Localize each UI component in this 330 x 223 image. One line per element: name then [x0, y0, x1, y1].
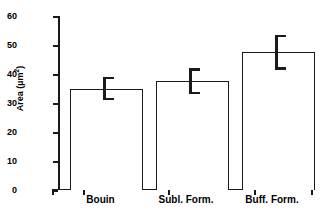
x-axis-label-buff-form: Buff. Form.: [229, 194, 315, 205]
y-tick-50: [53, 45, 58, 47]
x-tick-0: [52, 190, 54, 195]
error-bar-cap-bottom: [189, 92, 200, 95]
error-bar-cap-top: [275, 35, 286, 38]
y-tick-label-0: 0: [0, 186, 17, 195]
y-tick-label-40: 40: [0, 70, 17, 79]
y-tick-label-50: 50: [0, 41, 17, 50]
bar-bouin[interactable]: [70, 89, 143, 191]
error-bar-cap-bottom: [275, 67, 286, 70]
x-axis-label-subl-form: Subl. Form.: [143, 194, 229, 205]
error-bar-stem: [275, 35, 278, 70]
y-tick-20: [53, 132, 58, 134]
bar-subl-form[interactable]: [156, 81, 229, 190]
y-tick-label-30: 30: [0, 99, 17, 108]
error-bar-cap-bottom: [103, 98, 114, 101]
y-axis-title: Area (µm2): [12, 44, 25, 134]
y-axis-line: [58, 16, 60, 190]
y-tick-30: [53, 103, 58, 105]
error-bar-cap-top: [103, 77, 114, 80]
y-tick-60: [53, 16, 58, 18]
error-bar-stem: [189, 68, 192, 94]
x-axis-label-bouin: Bouin: [58, 194, 143, 205]
y-tick-0: [53, 190, 58, 192]
error-bar-cap-top: [189, 68, 200, 71]
bar-chart: Area (µm2) 60 50 40 30 20 10 0: [0, 0, 330, 223]
y-tick-label-20: 20: [0, 128, 17, 137]
y-tick-label-60: 60: [0, 12, 17, 21]
plot-area: 60 50 40 30 20 10 0: [58, 16, 313, 190]
y-tick-label-10: 10: [0, 157, 17, 166]
y-tick-10: [53, 161, 58, 163]
y-tick-40: [53, 74, 58, 76]
bar-buff-form[interactable]: [242, 52, 315, 190]
